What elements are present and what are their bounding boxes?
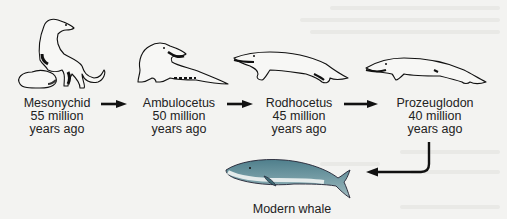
stage-unit: years ago [2,123,112,136]
stage-unit: years ago [380,123,490,136]
arrow-right-icon [226,99,254,109]
arrow-right-icon [100,99,128,109]
modern-whale-label: Modern whale [232,202,352,216]
arrow-right-icon [343,99,379,109]
mesonychid-illustration [12,14,112,90]
stage-label-prozeuglodon: Prozeuglodon 40 million years ago [380,97,490,136]
stage-label-rodhocetus: Rodhocetus 45 million years ago [244,97,354,136]
stage-unit: years ago [244,123,354,136]
stage-unit: years ago [124,123,234,136]
arrow-elbow-left-icon [362,140,432,180]
stage-label-ambulocetus: Ambulocetus 50 million years ago [124,97,234,136]
ambulocetus-illustration [134,40,232,86]
rodhocetus-illustration [230,50,352,86]
modern-whale-illustration [224,156,360,200]
stage-label-mesonychid: Mesonychid 55 million years ago [2,97,112,136]
prozeuglodon-illustration [364,54,494,88]
whale-evolution-diagram: Mesonychid 55 million years ago Ambuloce… [0,0,507,219]
